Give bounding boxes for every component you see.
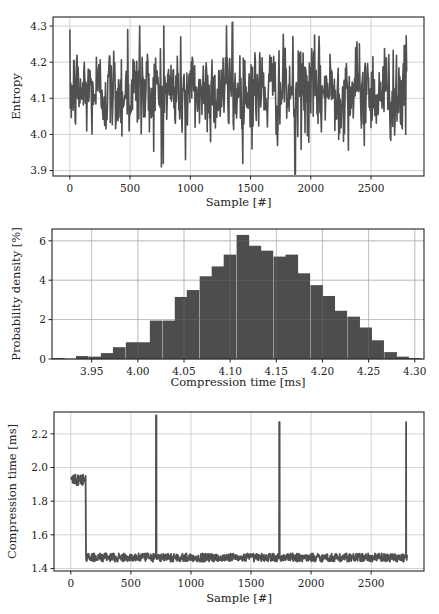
y-tick-label: 4.0 — [30, 128, 47, 140]
y-axis-label: Probability density [%] — [9, 227, 23, 360]
histogram-bar — [384, 352, 397, 359]
y-tick-label: 4 — [39, 274, 46, 286]
y-axis-label: Compression time [ms] — [5, 424, 19, 559]
y-axis-label: Entropy — [9, 73, 23, 120]
figure-canvas: 050010001500200025003.94.04.14.24.3Sampl… — [0, 0, 439, 614]
grid — [54, 412, 424, 571]
y-tick-label: 1.6 — [31, 529, 48, 541]
x-tick-label: 2500 — [358, 577, 385, 589]
x-tick-label: 2500 — [358, 182, 385, 194]
histogram-bar — [322, 296, 335, 359]
figure: 050010001500200025003.94.04.14.24.3Sampl… — [0, 0, 439, 614]
x-tick-label: 4.30 — [403, 365, 426, 377]
histogram-bar — [163, 321, 176, 359]
histogram-bar — [298, 273, 311, 359]
histogram-bar — [359, 327, 372, 359]
x-axis-label: Compression time [ms] — [170, 375, 305, 389]
axes-frame — [54, 412, 424, 571]
histogram-bar — [138, 342, 151, 359]
histogram-bar — [237, 235, 250, 359]
x-tick-label: 1000 — [178, 577, 205, 589]
x-tick-label: 4.00 — [126, 365, 149, 377]
histogram-bar — [286, 255, 299, 359]
histogram-bar — [187, 290, 200, 359]
histogram-bar — [126, 342, 139, 359]
histogram-bar — [310, 285, 323, 359]
histogram-bar — [261, 251, 274, 359]
y-tick-label: 2 — [39, 313, 46, 325]
compression-time-line — [71, 415, 407, 561]
y-tick-label: 0 — [39, 353, 46, 365]
x-tick-label: 500 — [121, 577, 141, 589]
y-tick-label: 4.3 — [30, 20, 47, 32]
x-tick-label: 4.20 — [311, 365, 334, 377]
histogram-bar — [334, 311, 347, 359]
histogram-bar — [175, 297, 188, 359]
x-axis-label: Sample [#] — [206, 195, 272, 209]
histogram-bar — [347, 317, 360, 359]
entropy-plot: 050010001500200025003.94.04.14.24.3Sampl… — [9, 17, 424, 209]
x-tick-label: 1500 — [237, 182, 264, 194]
x-tick-label: 2000 — [298, 577, 325, 589]
x-tick-label: 4.25 — [357, 365, 380, 377]
x-axis-label: Sample [#] — [206, 591, 272, 605]
y-tick-label: 1.4 — [31, 562, 48, 574]
histogram-bar — [274, 257, 287, 359]
histogram-bar — [113, 347, 126, 359]
histogram-bars — [52, 235, 421, 359]
y-tick-label: 1.8 — [31, 495, 48, 507]
histogram-bar — [249, 246, 262, 359]
histogram-bar — [200, 276, 213, 359]
x-tick-label: 2000 — [297, 182, 324, 194]
y-tick-label: 2.2 — [31, 428, 48, 440]
x-tick-label: 3.95 — [80, 365, 103, 377]
x-tick-label: 500 — [120, 182, 140, 194]
compression-time-plot: 050010001500200025001.41.61.82.02.2Sampl… — [5, 412, 424, 605]
histogram-plot: 3.954.004.054.104.154.204.254.300246Comp… — [9, 227, 426, 389]
y-tick-label: 4.2 — [30, 56, 47, 68]
x-tick-label: 1000 — [177, 182, 204, 194]
y-tick-label: 6 — [39, 235, 46, 247]
x-tick-label: 1500 — [238, 577, 265, 589]
x-tick-label: 0 — [67, 577, 74, 589]
y-tick-label: 4.1 — [30, 92, 47, 104]
histogram-bar — [101, 353, 114, 359]
histogram-bar — [150, 321, 163, 359]
histogram-bar — [371, 340, 384, 359]
x-tick-label: 0 — [67, 182, 74, 194]
y-tick-label: 3.9 — [30, 164, 47, 176]
y-tick-label: 2.0 — [31, 461, 48, 473]
